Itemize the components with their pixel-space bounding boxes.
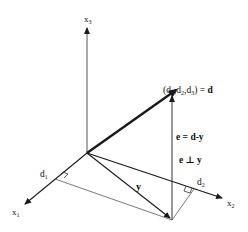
e-perpendicular-label: e ⊥ y (179, 155, 202, 165)
d1-projection-line (55, 179, 172, 220)
x2-label: x2 (227, 198, 235, 209)
y-label: y (136, 181, 141, 192)
d2-projection-line (172, 189, 194, 220)
vector-projection-diagram: x3 x1 x2 (d1,d2,d3) = d e = d-y e ⊥ y y … (0, 0, 248, 232)
x3-label: x3 (84, 14, 92, 25)
y-vector (87, 153, 170, 218)
d2-label: d2 (197, 177, 205, 188)
x1-label: x1 (12, 207, 20, 218)
d1-label: d1 (40, 169, 48, 180)
x1-axis (25, 153, 87, 204)
e-definition-label: e = d-y (176, 132, 204, 142)
d-vector (87, 90, 176, 153)
point-d-label: (d1,d2,d3) = d (163, 85, 213, 96)
